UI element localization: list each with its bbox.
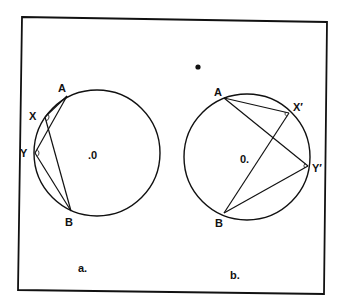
chord-a-y <box>35 96 67 153</box>
angle-mark-y <box>37 150 39 157</box>
center-label: 0. <box>240 153 249 165</box>
point-label-a: A <box>58 82 66 94</box>
panel-a: A X Y B .0 a. <box>20 82 160 274</box>
geometry-figure: A X Y B .0 a. A X′ Y′ B 0. b. <box>0 0 341 305</box>
point-label-b: B <box>215 217 223 229</box>
point-label-y-prime: Y′ <box>312 162 322 174</box>
point-label-y: Y <box>20 147 28 159</box>
panel-b: A X′ Y′ B 0. b. <box>184 86 322 281</box>
chord-a-x <box>45 96 67 117</box>
center-label: .0 <box>88 149 97 161</box>
chord-x-b <box>45 117 71 211</box>
point-label-x: X <box>29 110 37 122</box>
panel-caption-a: a. <box>78 262 87 274</box>
point-label-b: B <box>65 216 73 228</box>
panel-caption-b: b. <box>230 269 240 281</box>
point-label-a: A <box>214 86 222 98</box>
chord-y-prime-b <box>224 166 308 213</box>
chord-x-prime-b <box>224 113 289 213</box>
figure-frame <box>18 17 327 294</box>
stray-dot <box>195 64 200 69</box>
point-label-x-prime: X′ <box>293 101 303 113</box>
